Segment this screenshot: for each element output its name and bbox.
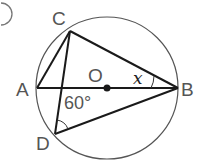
label-a: A [16, 79, 29, 100]
partial-number-circle [1, 3, 12, 25]
label-angle-x: x [133, 68, 143, 88]
label-c: C [52, 8, 66, 29]
segment-cb [70, 31, 178, 88]
geometry-diagram: C A B O D x 60° [0, 0, 199, 165]
angle-arc-b [151, 76, 154, 88]
label-b: B [181, 79, 194, 100]
label-d: D [36, 133, 50, 154]
label-angle-60: 60° [64, 93, 91, 113]
center-point-o [104, 85, 111, 92]
label-o: O [88, 65, 103, 86]
angle-arc-d [57, 120, 68, 129]
segment-cd [55, 31, 70, 134]
